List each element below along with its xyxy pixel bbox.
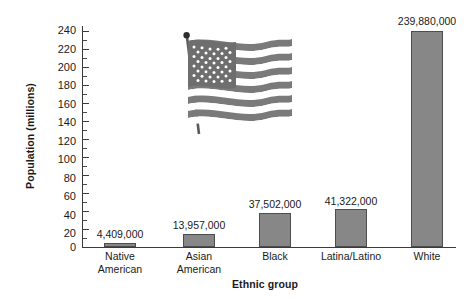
american-flag-icon xyxy=(168,28,293,136)
bar-black xyxy=(259,213,291,247)
category-label-asian-american-line1: Asian xyxy=(157,250,241,263)
y-tick-60: 60 xyxy=(42,191,76,202)
category-label-white: White xyxy=(385,250,469,263)
y-tick-40: 40 xyxy=(42,210,76,221)
bar-native-american xyxy=(104,243,136,247)
category-label-asian-american-line2: American xyxy=(157,263,241,276)
bar-value-native-american: 4,409,000 xyxy=(75,228,165,240)
category-label-native-american-line1: Native xyxy=(78,250,162,263)
y-tick-140: 140 xyxy=(42,117,76,128)
y-tick-0: 0 xyxy=(42,242,76,253)
y-tick-80: 80 xyxy=(42,173,76,184)
category-label-native-american-line2: American xyxy=(78,263,162,276)
bar-white xyxy=(411,31,443,247)
bar-asian-american xyxy=(183,234,215,247)
x-axis-line xyxy=(82,247,456,248)
category-label-black: Black xyxy=(233,250,317,263)
y-tick-20: 20 xyxy=(42,228,76,239)
bar-value-white: 239,880,000 xyxy=(382,15,471,27)
bar-value-latina-latino: 41,322,000 xyxy=(306,195,396,207)
y-tick-100: 100 xyxy=(42,154,76,165)
y-tick-240: 240 xyxy=(42,25,76,36)
y-tick-120: 120 xyxy=(42,136,76,147)
y-axis-line xyxy=(82,26,83,248)
y-axis-title: Population (millions) xyxy=(24,46,36,226)
y-tick-160: 160 xyxy=(42,99,76,110)
x-axis-title: Ethnic group xyxy=(195,278,335,290)
category-label-latina-latino: Latina/Latino xyxy=(309,250,393,263)
y-tick-180: 180 xyxy=(42,80,76,91)
bar-value-asian-american: 13,957,000 xyxy=(154,219,244,231)
y-tick-220: 220 xyxy=(42,44,76,55)
y-tick-200: 200 xyxy=(42,62,76,73)
bar-latina-latino xyxy=(335,209,367,246)
bar-chart: Population (millions) 240 220 200 180 16… xyxy=(0,0,471,298)
